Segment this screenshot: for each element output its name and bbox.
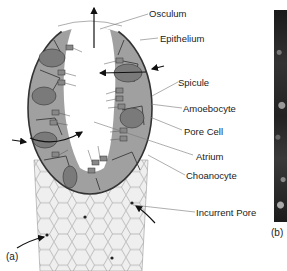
label-epithelium: Epithelium — [160, 34, 204, 44]
body-wall — [28, 20, 152, 194]
label-pore-cell: Pore Cell — [184, 127, 223, 137]
sponge-photograph — [274, 10, 287, 222]
label-osculum: Osculum — [149, 9, 186, 19]
sponge-diagram — [0, 0, 287, 271]
panel-label-a: (a) — [6, 252, 18, 262]
label-amoebocyte: Amoebocyte — [183, 104, 236, 114]
label-incurrent-pore: Incurrent Pore — [196, 208, 256, 218]
label-spicule: Spicule — [178, 78, 209, 88]
label-choanocyte: Choanocyte — [186, 171, 237, 181]
panel-label-b: (b) — [271, 228, 283, 238]
label-atrium: Atrium — [196, 152, 223, 162]
